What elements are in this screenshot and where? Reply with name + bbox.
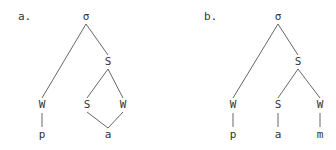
tree-node-m: m xyxy=(317,128,324,141)
diagram-label: b. xyxy=(204,10,217,23)
tree-edge-s2-a xyxy=(87,112,108,128)
tree-node-root: σ xyxy=(83,10,90,23)
tree-edge-root-s1 xyxy=(86,24,108,55)
tree-edge-s1-w2 xyxy=(108,69,123,98)
tree-node-root: σ xyxy=(275,10,282,23)
diagram-b: b.σSWSWpam xyxy=(204,10,324,141)
diagram-label: a. xyxy=(18,10,31,23)
tree-node-s2: S xyxy=(275,98,282,111)
tree-node-w1: W xyxy=(230,98,237,111)
prosodic-tree-diagrams: a.σSWSWpa b.σSWSWpam xyxy=(0,0,336,150)
tree-edge-s1-s2 xyxy=(278,69,298,98)
tree-edge-root-w1 xyxy=(42,24,86,98)
tree-edge-s1-w2 xyxy=(298,69,320,98)
tree-node-s1: S xyxy=(295,55,302,68)
tree-node-p: p xyxy=(230,128,237,141)
tree-node-a: a xyxy=(105,128,112,141)
tree-node-p: p xyxy=(39,128,46,141)
diagram-a: a.σSWSWpa xyxy=(18,10,127,141)
tree-edge-root-w1 xyxy=(233,24,278,98)
tree-node-s2: S xyxy=(84,98,91,111)
tree-edge-s1-s2 xyxy=(87,69,108,98)
tree-node-s1: S xyxy=(105,55,112,68)
tree-node-w2: W xyxy=(317,98,324,111)
tree-edge-w2-a xyxy=(108,112,123,128)
tree-node-w2: W xyxy=(120,98,127,111)
tree-node-a: a xyxy=(275,128,282,141)
tree-edge-root-s1 xyxy=(278,24,298,55)
tree-node-w1: W xyxy=(39,98,46,111)
